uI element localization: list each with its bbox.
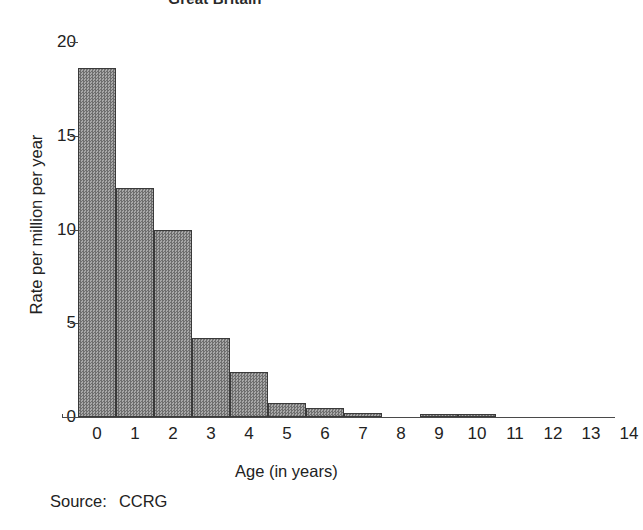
x-tick-label-3: 3: [192, 424, 230, 444]
x-tick-label-6: 6: [306, 424, 344, 444]
x-tick-label-1: 1: [116, 424, 154, 444]
y-tick-mark-5: [70, 323, 78, 324]
y-tick-mark-10: [70, 230, 78, 231]
bar-age-3: [192, 338, 230, 417]
x-axis-left-cap: [62, 414, 63, 418]
x-tick-label-10: 10: [458, 424, 496, 444]
bar-age-0: [78, 68, 116, 417]
bar-age-2: [154, 230, 192, 418]
x-tick-label-0: 0: [78, 424, 116, 444]
bar-age-4: [230, 372, 268, 417]
x-axis-label: Age (in years): [235, 462, 338, 481]
x-tick-label-9: 9: [420, 424, 458, 444]
x-tick-label-12: 12: [534, 424, 572, 444]
bar-age-1: [116, 188, 154, 417]
source-label: Source:: [50, 492, 107, 510]
bar-age-5: [268, 403, 306, 417]
x-tick-label-14: 14: [610, 424, 643, 444]
x-tick-label-5: 5: [268, 424, 306, 444]
source-value: CCRG: [119, 492, 168, 510]
bar-age-6: [306, 408, 344, 417]
x-tick-label-4: 4: [230, 424, 268, 444]
x-tick-label-2: 2: [154, 424, 192, 444]
x-tick-label-13: 13: [572, 424, 610, 444]
x-tick-label-7: 7: [344, 424, 382, 444]
y-tick-mark-20: [70, 42, 78, 43]
x-tick-label-8: 8: [382, 424, 420, 444]
x-tick-label-11: 11: [496, 424, 534, 444]
y-tick-mark-15: [70, 136, 78, 137]
source-note: Source:CCRG: [50, 492, 167, 511]
x-axis-line: [62, 417, 615, 418]
